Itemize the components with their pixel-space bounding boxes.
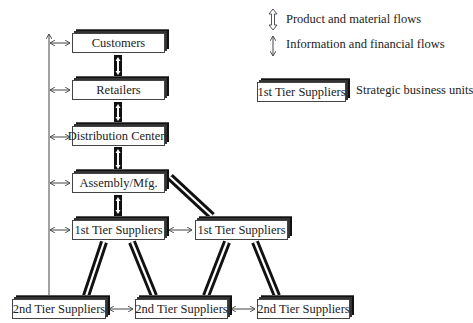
legend-product-flow-icon (269, 9, 277, 30)
node-retailers-label: Retailers (72, 80, 165, 100)
node-distribution-centers: Distribution Centers (72, 126, 165, 146)
node-customers-label: Customers (72, 33, 165, 53)
legend-info-flow-label: Information and financial flows (286, 37, 445, 52)
node-tier2-left-label: 2nd Tier Suppliers (12, 299, 106, 319)
legend-sample-box-caption: Strategic business units (356, 83, 473, 98)
node-tier2-right: 2nd Tier Suppliers (257, 299, 350, 319)
node-tier2-middle: 2nd Tier Suppliers (135, 299, 228, 319)
node-tier1-left-label: 1st Tier Suppliers (72, 220, 165, 240)
node-tier2-left: 2nd Tier Suppliers (12, 299, 106, 319)
node-tier1-left: 1st Tier Suppliers (72, 220, 165, 240)
legend-sample-box-label: 1st Tier Suppliers (257, 82, 346, 102)
node-tier2-right-label: 2nd Tier Suppliers (257, 299, 350, 319)
node-tier2-middle-label: 2nd Tier Suppliers (135, 299, 228, 319)
node-tier1-right: 1st Tier Suppliers (195, 220, 288, 240)
legend-sample-box: 1st Tier Suppliers (257, 82, 346, 102)
node-distribution-centers-label: Distribution Centers (72, 126, 165, 146)
node-assembly-label: Assembly/Mfg. (72, 173, 165, 193)
node-retailers: Retailers (72, 80, 165, 100)
node-assembly: Assembly/Mfg. (72, 173, 165, 193)
node-tier1-right-label: 1st Tier Suppliers (195, 220, 288, 240)
legend-product-flow-label: Product and material flows (286, 12, 421, 27)
node-customers: Customers (72, 33, 165, 53)
